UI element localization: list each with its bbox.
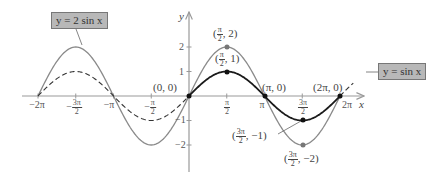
fraction: 3π2 [236, 128, 246, 145]
ytick-m2: −2 [175, 140, 186, 150]
point-2pi-0 [338, 94, 343, 99]
fraction: 3π2 [72, 99, 82, 116]
xtick-pi: π [259, 100, 264, 110]
label-box-2sinx: y = 2 sin x [51, 12, 108, 29]
denominator: 2 [74, 108, 80, 116]
xtick-neg3pi2: −3π2 [66, 99, 82, 116]
denominator: 2 [150, 108, 156, 116]
label-origin: (0, 0) [153, 82, 177, 93]
fraction: π2 [224, 99, 230, 116]
xtick-pi2: π2 [224, 99, 230, 116]
label-pi2-2: (π2, 2) [213, 26, 237, 43]
xtick-3pi2: 3π2 [298, 99, 308, 116]
xtick-2pi: 2π [342, 100, 352, 110]
denominator: 2 [224, 108, 230, 116]
label-2pi-0: (2π, 0) [313, 82, 342, 93]
label-3pi2-m2: (3π2, −2) [284, 151, 319, 168]
xtick-neg2pi: −2π [29, 100, 45, 110]
ytick-1: 1 [179, 67, 184, 77]
ytick-m1: −1 [175, 115, 186, 125]
point-3pi2-m1 [301, 118, 306, 123]
fraction: 3π2 [288, 151, 298, 168]
point-pi-0 [263, 94, 268, 99]
point-pi2-2 [225, 45, 230, 50]
denominator: 2 [290, 160, 296, 168]
axis-label-x: x [359, 99, 364, 110]
point-3pi2-m2 [301, 143, 306, 148]
label-pi2-1: (π2, 1) [215, 51, 239, 68]
denominator: 2 [300, 108, 306, 116]
ytick-2: 2 [179, 42, 184, 52]
point-pi2-1 [225, 70, 230, 75]
coord-rest: , −1) [246, 129, 267, 141]
xtick-negpi: −π [104, 100, 115, 110]
xtick-negpi2: −π2 [144, 99, 156, 116]
denominator: 2 [238, 137, 244, 145]
coord-rest: , 1) [225, 52, 240, 64]
fraction: π2 [150, 99, 156, 116]
label-pi-0: (π, 0) [262, 82, 286, 93]
coord-rest: , −2) [298, 152, 319, 164]
fraction: 3π2 [298, 99, 308, 116]
coord-rest: , 2) [223, 27, 238, 39]
leader-2sinx [76, 29, 82, 45]
label-3pi2-m1: (3π2, −1) [232, 128, 267, 145]
axis-label-y: y [179, 11, 184, 22]
point-origin [187, 94, 192, 99]
label-box-sinx: y = sin x [378, 63, 426, 80]
